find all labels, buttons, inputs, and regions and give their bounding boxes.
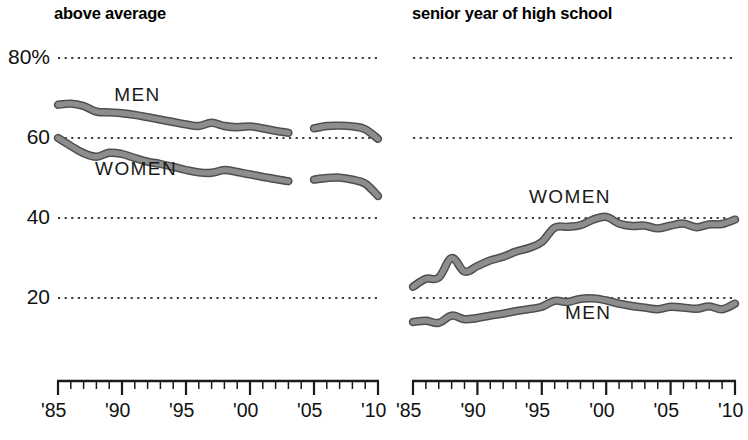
x-tick-label: '90: [105, 399, 130, 422]
x-tick-label: '95: [169, 399, 194, 422]
panel-title-right: senior year of high school: [412, 4, 612, 23]
chart-panel-senior-year: senior year of high school: [400, 0, 748, 440]
x-tick-label: '85: [396, 399, 421, 422]
x-tick-label: '00: [233, 399, 258, 422]
series-label-men: MEN: [114, 84, 160, 106]
y-tick-label: 80%: [2, 45, 50, 69]
panel-title-left: above average: [54, 4, 166, 23]
y-tick-label: 40: [2, 205, 50, 229]
series-label-women: WOMEN: [95, 158, 177, 180]
y-tick-label: 20: [2, 285, 50, 309]
chart-panel-above-average: above average: [0, 0, 400, 440]
x-tick-label: '05: [297, 399, 322, 422]
series-label-men: MEN: [565, 302, 611, 324]
series-label-women: WOMEN: [529, 186, 611, 208]
x-tick-label: '95: [525, 399, 550, 422]
x-tick-label: '10: [718, 399, 743, 422]
x-tick-label: '10: [361, 399, 386, 422]
x-tick-label: '85: [41, 399, 66, 422]
x-tick-label: '00: [589, 399, 614, 422]
x-tick-label: '90: [460, 399, 485, 422]
y-tick-label: 60: [2, 125, 50, 149]
x-tick-label: '05: [654, 399, 679, 422]
